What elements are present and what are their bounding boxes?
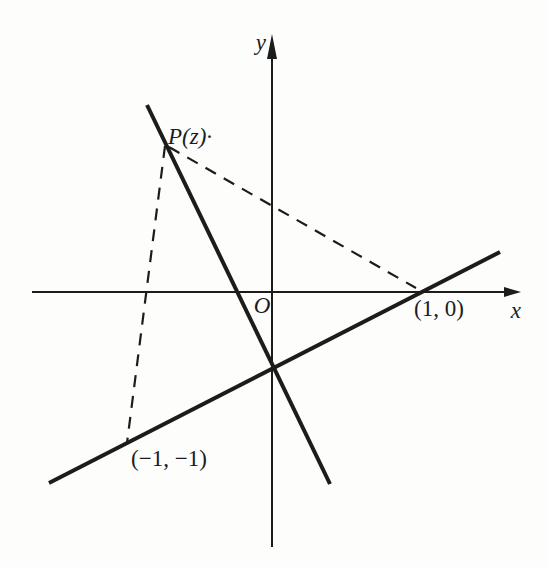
point-p-label: P(z)· <box>167 124 212 149</box>
complex-plane-figure: y x O P(z)· (1, 0) (−1, −1) <box>0 0 548 567</box>
diagram-canvas: y x O P(z)· (1, 0) (−1, −1) <box>0 0 548 567</box>
point-1-0-label: (1, 0) <box>414 296 464 321</box>
y-axis-arrowhead-icon <box>267 34 277 59</box>
x-axis-label: x <box>510 298 522 323</box>
solid-line-through-1-0-and-m1-m1 <box>49 252 500 483</box>
x-axis-arrowhead-icon <box>504 287 521 297</box>
solid-line-through-p <box>147 105 330 484</box>
origin-label: O <box>254 293 271 318</box>
y-axis-label: y <box>254 30 267 55</box>
dashed-segment-p-to-1-0 <box>169 147 416 288</box>
dashed-segment-p-to-m1-m1 <box>127 146 165 443</box>
point-m1-m1-label: (−1, −1) <box>131 446 207 471</box>
